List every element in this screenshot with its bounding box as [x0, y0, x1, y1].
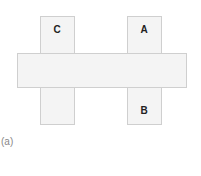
figure-caption: (a) — [1, 136, 13, 147]
label-b: B — [134, 105, 154, 116]
horizontal-strip — [17, 53, 187, 88]
label-c: C — [47, 24, 67, 35]
label-a: A — [134, 24, 154, 35]
